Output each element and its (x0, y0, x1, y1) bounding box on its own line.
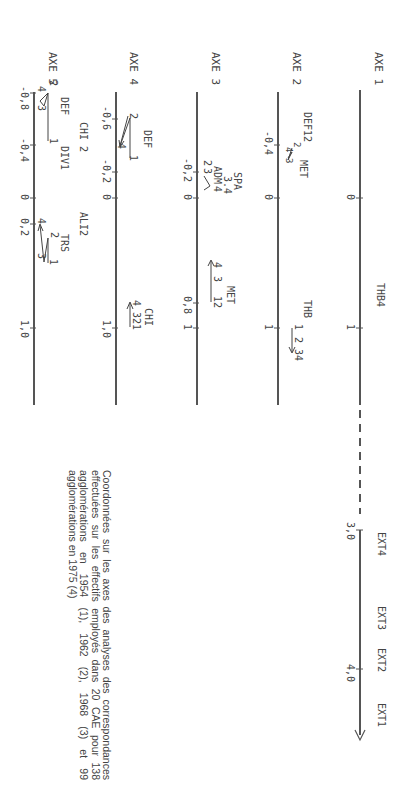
axis-2-point: DEF12 (302, 112, 312, 142)
axis-1-ext-point: EXT1 (376, 703, 386, 727)
axis-5-point: DEF (59, 97, 69, 115)
axis-1-ext-point: EXT4 (376, 532, 386, 556)
axis-2-label: AXE 2 (291, 52, 302, 85)
axis-4-point: DEF (142, 130, 152, 148)
axis-1-ext-tick: 4,0 (345, 664, 355, 682)
axis-4-point: 321 (131, 312, 141, 330)
axis-3-point: 3 (202, 168, 212, 174)
axis-3-point: 4 (212, 262, 222, 268)
axis-1-ext-point: EXT3 (376, 606, 386, 630)
axis-3-point: ADM (212, 166, 222, 184)
axis-4-tick: 0 (101, 194, 111, 200)
axis-2-point: 3 (284, 158, 293, 163)
axis-5-tick: 1,0 (19, 320, 29, 338)
axis-5-point: CHI 2 (78, 122, 88, 152)
axis-3-tick: 1 (182, 324, 192, 330)
axis-4-point: 2 (128, 113, 138, 119)
axis-1-label: AXE 1 (373, 52, 384, 85)
axis-2-tick: -0,4 (263, 131, 273, 155)
axis-3-point: SPA (232, 172, 242, 190)
axis-5-tick: -0,4 (19, 138, 29, 162)
axis-5-point: 2 (49, 232, 59, 238)
axis-1-tick: 0 (345, 194, 355, 200)
axis-4-tick: 1,0 (101, 320, 111, 338)
axis-1-tick: 1 (345, 324, 355, 330)
axis-5-point: 4 (36, 86, 46, 92)
axis-5-point: 1 (48, 259, 58, 265)
axis-5-tick: 0 (19, 194, 29, 200)
axis-2-point: THB (302, 300, 312, 318)
axis-3-point: 2 (202, 160, 212, 166)
axis-5-tick: 0,2 (19, 218, 29, 236)
axis-3-point: 3 (212, 276, 222, 282)
axis-3-tick: -0,2 (182, 158, 192, 182)
axis-4-point: 4 (131, 300, 141, 306)
axis-5-point: 3 (36, 253, 46, 259)
axis-2-tick: 0 (263, 194, 273, 200)
axis-4-label: AXE 4 (128, 52, 139, 85)
axis-3-tick: 0 (182, 194, 192, 200)
axis-4-point: CHI (143, 308, 153, 326)
axis-5-point: DIV1 (59, 146, 69, 170)
axis-3-tick: 0,8 (182, 296, 192, 314)
figure-caption: Coordonnées sur les axes des analyses de… (22, 470, 112, 780)
axis-2-point: MET (298, 160, 308, 178)
axis-2-point: 34 (293, 349, 303, 361)
axis-5-point: ALI2 (78, 212, 88, 236)
axis-4-tick: -0,6 (101, 106, 111, 130)
axis-5-tick: -0,8 (19, 86, 29, 110)
axis-3-label: AXE 3 (210, 52, 221, 85)
axis-5-point: 2 (48, 80, 58, 86)
axis-4-tick: -0,2 (101, 159, 111, 183)
axis-3-point: 3.4 (222, 176, 232, 194)
axis-1-point: THB4 (375, 283, 385, 307)
axis-2-tick: 1 (263, 324, 273, 330)
axis-3-point: MET (225, 286, 235, 304)
axis-2-point: 4 (284, 147, 293, 152)
axis-1-ext-point: EXT2 (376, 648, 386, 672)
axis-1-ext-tick: 3,0 (345, 522, 355, 540)
axis-2-point: 2 (293, 337, 303, 343)
axis-4-point: 4 (116, 143, 126, 149)
axis-3-point: 12 (212, 296, 222, 308)
axis-5-point: 4 (36, 218, 46, 224)
axis-4-point: 1 (128, 155, 138, 161)
axis-5-point: 3 (36, 105, 46, 111)
axis-2-point: 1 (293, 324, 303, 330)
axis-5-point: 1 (48, 138, 58, 144)
axis-5-point: TRS (59, 234, 69, 252)
axis-3-point: 4 (212, 186, 222, 192)
